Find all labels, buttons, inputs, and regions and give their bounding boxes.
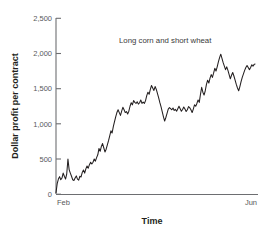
chart-container: 2,500 2,000 1,500 1,000 500 0 Feb Jun Lo… — [0, 0, 269, 234]
y-tick-label-500: 500 — [39, 155, 52, 164]
y-axis-title: Dollar profit per contract — [10, 53, 20, 159]
y-tick-label-2500: 2,500 — [33, 14, 52, 23]
x-tick-label-jun: Jun — [245, 198, 257, 207]
y-tick-label-2000: 2,000 — [33, 49, 52, 58]
series-annotation: Long corn and short wheat — [119, 36, 212, 45]
y-tick-label-0: 0 — [48, 190, 52, 199]
x-axis-title: Time — [142, 216, 163, 226]
y-tick-label-1000: 1,000 — [33, 120, 52, 129]
x-tick-label-feb: Feb — [57, 198, 70, 207]
y-tick-label-1500: 1,500 — [33, 84, 52, 93]
